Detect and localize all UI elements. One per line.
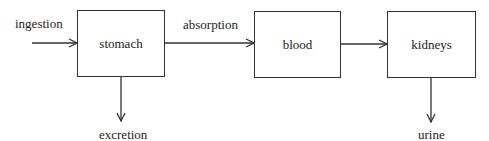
kidneys-box: kidneys <box>387 11 476 78</box>
stomach-label: stomach <box>99 36 142 52</box>
kidneys-label: kidneys <box>411 37 451 53</box>
excretion-label: excretion <box>99 127 147 141</box>
absorption-label: absorption <box>183 17 238 33</box>
blood-label: blood <box>283 37 313 53</box>
stomach-box: stomach <box>77 10 165 77</box>
blood-box: blood <box>254 11 341 78</box>
ingestion-label: ingestion <box>15 16 63 32</box>
urine-label: urine <box>418 127 445 141</box>
